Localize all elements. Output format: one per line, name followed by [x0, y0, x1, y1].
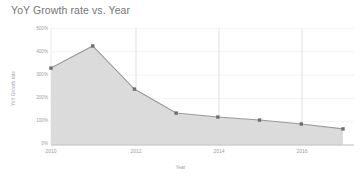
x-axis-title: Year — [0, 165, 361, 170]
data-point-2014 — [216, 115, 219, 118]
data-point-2012 — [133, 87, 136, 90]
data-point-2017 — [341, 127, 344, 130]
data-point-2013 — [174, 111, 177, 114]
data-point-2015 — [258, 118, 261, 121]
chart-container: YoY Growth rate vs. Year YoY Growth rate… — [0, 0, 361, 180]
area-fill — [51, 46, 343, 145]
data-point-2010 — [49, 66, 52, 69]
plot-area — [0, 0, 361, 180]
data-point-2011 — [91, 44, 94, 47]
data-point-2016 — [300, 122, 303, 125]
